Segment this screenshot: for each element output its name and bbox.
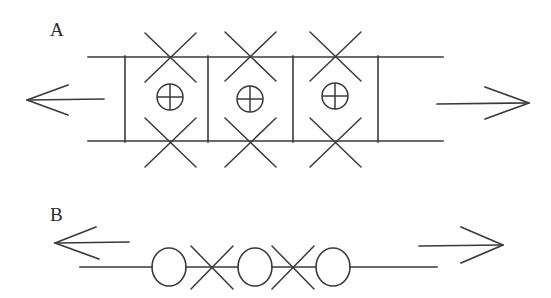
panel-b-left-arrow-icon [55, 227, 129, 259]
panel-a-label: A [50, 20, 64, 39]
circle-icon-1 [152, 248, 186, 286]
panel-a-left-arrow-head-upper [27, 85, 68, 100]
panel-a-left-arrow-head-lower [27, 100, 68, 115]
panel-b-circles [152, 248, 350, 286]
circle-plus-icon-2 [237, 86, 263, 112]
x-mark-bottom-2 [225, 118, 276, 167]
panel-a-left-arrow-shaft [29, 99, 104, 100]
panel-b-left-arrow-head-lower [55, 243, 99, 259]
panel-a-right-arrow-icon [437, 87, 529, 119]
panel-b-label: B [50, 205, 63, 224]
panel-b-right-arrow-head-lower [461, 245, 503, 263]
circle-plus-icon-3 [322, 83, 348, 109]
panel-b-left-arrow-shaft [57, 242, 129, 243]
panel-a-group [27, 32, 529, 167]
panel-b-right-arrow-head-upper [461, 227, 503, 245]
panel-a-right-arrow-head-lower [485, 103, 529, 119]
panel-a-circle-plus-symbols [157, 83, 348, 112]
figure-canvas: A B [0, 0, 551, 298]
panel-a-left-arrow-icon [27, 85, 104, 115]
panel-b-group [55, 227, 503, 289]
x-mark-bottom-1 [145, 118, 196, 167]
panel-a-right-arrow-shaft [437, 103, 527, 104]
circle-icon-2 [238, 248, 272, 286]
circle-icon-3 [316, 248, 350, 286]
schematic-diagram [0, 0, 551, 298]
panel-b-left-arrow-head-upper [55, 227, 96, 243]
x-mark-bottom-3 [310, 118, 361, 167]
panel-a-bottom-x-marks [145, 118, 361, 167]
panel-b-right-arrow-icon [419, 227, 503, 263]
panel-b-right-arrow-shaft [419, 245, 501, 246]
panel-a-right-arrow-head-upper [485, 87, 529, 103]
circle-plus-icon-1 [157, 84, 183, 110]
